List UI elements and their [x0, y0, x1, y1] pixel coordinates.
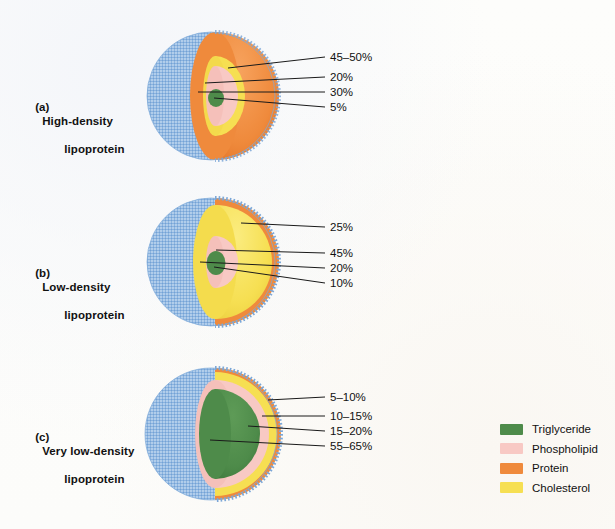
panel-ldl: (b) Low-density lipoprotein: [0, 170, 615, 355]
vldl-label-protein: 5–10%: [330, 391, 366, 403]
legend-swatch-phospholipid: [500, 443, 523, 454]
legend-item-phospholipid: Phospholipid: [500, 441, 598, 457]
legend-item-cholesterol: Cholesterol: [500, 480, 598, 496]
legend-swatch-triglyceride: [500, 424, 523, 435]
hdl-label-phospholipid: 30%: [330, 86, 353, 98]
hdl-label-cholesterol: 20%: [330, 71, 353, 83]
ldl-label-phospholipid: 20%: [330, 262, 353, 274]
legend-label-protein: Protein: [532, 462, 568, 474]
ldl-leader-lines: [0, 170, 615, 355]
vldl-label-triglyceride: 55–65%: [330, 440, 372, 452]
legend-item-triglyceride: Triglyceride: [500, 421, 598, 437]
legend-label-phospholipid: Phospholipid: [532, 443, 598, 455]
ldl-label-cholesterol: 45%: [330, 247, 353, 259]
ldl-label-triglyceride: 10%: [330, 277, 353, 289]
legend: Triglyceride Phospholipid Protein Choles…: [500, 421, 598, 499]
ldl-label-protein: 25%: [330, 221, 353, 233]
legend-item-protein: Protein: [500, 460, 598, 476]
legend-label-cholesterol: Cholesterol: [532, 482, 590, 494]
legend-label-triglyceride: Triglyceride: [532, 423, 591, 435]
hdl-label-protein: 45–50%: [330, 51, 372, 63]
panel-hdl: (a) High-density lipoprotein: [0, 0, 615, 185]
legend-swatch-protein: [500, 463, 523, 474]
vldl-label-cholesterol: 10–15%: [330, 410, 372, 422]
vldl-label-phospholipid: 15–20%: [330, 425, 372, 437]
hdl-label-triglyceride: 5%: [330, 101, 347, 113]
legend-swatch-cholesterol: [500, 482, 523, 493]
hdl-leader-lines: [0, 0, 615, 185]
